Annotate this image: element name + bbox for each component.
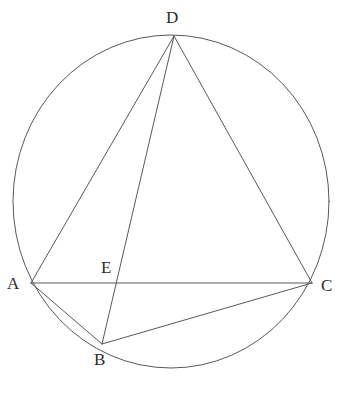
point-label-b: B <box>94 351 105 368</box>
point-label-a: A <box>7 275 19 292</box>
segment-bc <box>102 283 312 344</box>
segment-db <box>102 36 174 344</box>
segment-ad <box>31 36 174 283</box>
point-label-d: D <box>166 9 178 26</box>
shapes-group <box>13 35 329 368</box>
geometry-canvas <box>0 0 339 393</box>
geometry-figure: A B C D E <box>0 0 339 393</box>
segment-ab <box>31 283 102 344</box>
circumscribed-circle <box>13 35 329 368</box>
segment-dc <box>174 36 312 283</box>
point-label-c: C <box>321 277 332 294</box>
point-label-e: E <box>101 259 111 276</box>
